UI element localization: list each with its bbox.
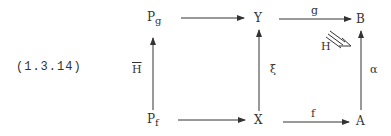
diagram-arrows bbox=[0, 0, 391, 136]
arrow-homotopy-double bbox=[326, 31, 351, 48]
